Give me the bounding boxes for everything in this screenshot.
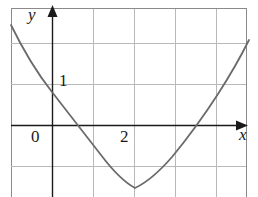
plot-canvas: [0, 0, 258, 197]
y-axis: [48, 5, 58, 197]
x-tick-label-2: 2: [120, 128, 129, 145]
x-axis: [11, 121, 248, 131]
y-axis-label: y: [28, 6, 36, 23]
grid-lines-vertical: [12, 8, 247, 197]
y-tick-label-1: 1: [59, 72, 68, 89]
parabola-graph-figure: y x 0 1 2: [0, 0, 258, 197]
grid-lines-horizontal: [11, 9, 246, 167]
x-axis-label: x: [239, 126, 247, 143]
parabola-curve: [11, 25, 249, 188]
origin-label: 0: [31, 128, 40, 145]
